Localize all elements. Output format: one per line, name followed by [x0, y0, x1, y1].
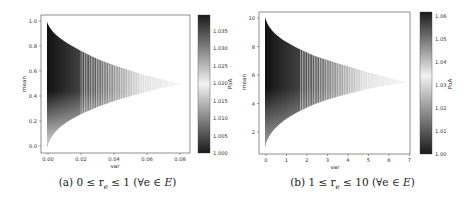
- svg-text:1.05: 1.05: [435, 36, 447, 42]
- svg-text:1.025: 1.025: [213, 63, 228, 69]
- svg-text:0.4: 0.4: [29, 93, 38, 99]
- scatter-plot-a: 1.0 0.8 0.6 0.4 0.2 0.0 0.00 0.02 0.04 0…: [0, 0, 235, 175]
- svg-text:0: 0: [264, 157, 267, 163]
- svg-text:1.04: 1.04: [435, 59, 447, 65]
- svg-text:1.02: 1.02: [435, 105, 447, 111]
- svg-text:1.03: 1.03: [435, 82, 447, 88]
- colorbar-b: [420, 12, 432, 154]
- caption-a: (a) 0 ≤ re ≤ 1 (∀e ∈ E): [0, 176, 235, 191]
- svg-text:0.8: 0.8: [29, 43, 37, 49]
- svg-text:1.00: 1.00: [435, 151, 447, 157]
- svg-text:1.01: 1.01: [435, 128, 447, 134]
- svg-text:5: 5: [367, 157, 370, 163]
- svg-text:7: 7: [408, 157, 411, 163]
- svg-text:1.0: 1.0: [29, 18, 37, 24]
- svg-text:0.0: 0.0: [29, 143, 37, 149]
- subfigure-a: 1.0 0.8 0.6 0.4 0.2 0.0 0.00 0.02 0.04 0…: [0, 0, 235, 202]
- svg-text:4: 4: [346, 157, 350, 163]
- svg-text:8: 8: [252, 44, 255, 50]
- svg-text:0.00: 0.00: [42, 156, 54, 162]
- svg-text:1.000: 1.000: [213, 150, 228, 156]
- y-axis-label-b: mean: [241, 74, 247, 90]
- svg-text:6: 6: [252, 72, 255, 78]
- svg-text:10: 10: [248, 15, 255, 21]
- colorbar-label-b: PoA: [447, 79, 453, 90]
- subfigure-b: 10 8 6 4 2 0 1 2 3 4 5 6 7 var mean 1.00…: [235, 0, 470, 202]
- svg-text:4: 4: [252, 101, 256, 107]
- svg-text:0.6: 0.6: [29, 68, 37, 74]
- colorbar-a: [198, 15, 210, 153]
- svg-text:1.030: 1.030: [213, 45, 228, 51]
- svg-text:1.005: 1.005: [213, 133, 228, 139]
- svg-text:2: 2: [305, 157, 308, 163]
- svg-text:1.020: 1.020: [213, 80, 228, 86]
- svg-text:3: 3: [326, 157, 329, 163]
- svg-text:1.015: 1.015: [213, 98, 228, 104]
- svg-text:1: 1: [285, 157, 288, 163]
- svg-text:0.2: 0.2: [29, 118, 37, 124]
- caption-b: (b) 1 ≤ re ≤ 10 (∀e ∈ E): [235, 176, 470, 191]
- svg-text:1.010: 1.010: [213, 115, 228, 121]
- svg-text:0.08: 0.08: [174, 156, 186, 162]
- x-axis-label-a: var: [110, 163, 120, 169]
- svg-text:1.06: 1.06: [435, 13, 447, 19]
- svg-text:1.035: 1.035: [213, 28, 228, 34]
- svg-text:0.04: 0.04: [108, 156, 120, 162]
- svg-text:0.06: 0.06: [141, 156, 153, 162]
- colorbar-label-a: PoA: [227, 79, 233, 90]
- svg-text:0.02: 0.02: [75, 156, 87, 162]
- svg-text:2: 2: [252, 129, 255, 135]
- y-axis-label-a: mean: [21, 76, 27, 92]
- x-axis-label-b: var: [330, 164, 340, 170]
- svg-text:6: 6: [387, 157, 390, 163]
- scatter-plot-b: 10 8 6 4 2 0 1 2 3 4 5 6 7 var mean 1.00…: [235, 0, 470, 175]
